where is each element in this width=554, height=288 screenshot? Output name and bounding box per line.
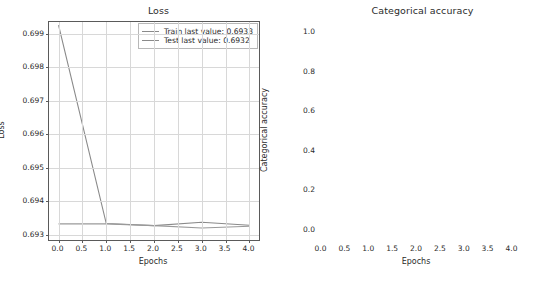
- xtick-label: 1.5: [123, 244, 135, 253]
- ytick-mark: [46, 34, 49, 35]
- loss-yaxis-title: Loss: [0, 121, 6, 139]
- xtick-label: 3.5: [219, 244, 231, 253]
- gridline-horizontal: [49, 168, 259, 169]
- gridline-horizontal: [49, 235, 259, 236]
- xtick-label: 0.0: [52, 244, 64, 253]
- subplot-categorical-accuracy: Categorical accuracy Train last value: 0…: [277, 0, 554, 288]
- gridline-vertical: [59, 22, 60, 240]
- xtick-label: 2.0: [410, 244, 422, 253]
- xtick-mark: [59, 240, 60, 243]
- xtick-mark: [249, 240, 250, 243]
- gridline-vertical: [130, 22, 131, 240]
- ytick-label: 0.698: [10, 62, 44, 71]
- ytick-label: 0.8: [295, 66, 315, 75]
- gridline-vertical: [226, 22, 227, 240]
- ytick-mark: [46, 67, 49, 68]
- xtick-label: 2.5: [171, 244, 183, 253]
- ytick-label: 1.0: [295, 26, 315, 35]
- gridline-horizontal: [49, 34, 259, 35]
- gridline-vertical: [249, 22, 250, 240]
- ytick-label: 0.2: [295, 185, 315, 194]
- loss-chart-title: Loss: [0, 5, 277, 16]
- ytick-label: 0.695: [10, 162, 44, 171]
- ytick-mark: [46, 201, 49, 202]
- xtick-label: 1.5: [386, 244, 398, 253]
- xtick-label: 4.0: [242, 244, 254, 253]
- ytick-label: 0.6: [295, 106, 315, 115]
- xtick-label: 4.0: [505, 244, 517, 253]
- xtick-label: 0.5: [75, 244, 87, 253]
- xtick-mark: [82, 240, 83, 243]
- ytick-mark: [46, 168, 49, 169]
- gridline-vertical: [178, 22, 179, 240]
- ytick-label: 0.0: [295, 225, 315, 234]
- test-line-swatch-icon: [142, 40, 159, 41]
- ytick-label: 0.697: [10, 95, 44, 104]
- gridline-horizontal: [49, 201, 259, 202]
- accuracy-xaxis-title: Epochs: [402, 257, 431, 266]
- xtick-mark: [130, 240, 131, 243]
- xtick-mark: [106, 240, 107, 243]
- xtick-label: 3.0: [458, 244, 470, 253]
- loss-xaxis-title: Epochs: [139, 257, 168, 266]
- loss-legend: Train last value: 0.6933 Test last value…: [138, 23, 258, 49]
- gridline-vertical: [154, 22, 155, 240]
- ytick-mark: [46, 235, 49, 236]
- xtick-mark: [202, 240, 203, 243]
- xtick-label: 2.0: [147, 244, 159, 253]
- xtick-mark: [178, 240, 179, 243]
- xtick-label: 1.0: [362, 244, 374, 253]
- matplotlib-figure: Loss Train last value: 0.6933 Test last …: [0, 0, 554, 288]
- xtick-label: 3.5: [482, 244, 494, 253]
- ytick-label: 0.699: [10, 28, 44, 37]
- gridline-horizontal: [49, 101, 259, 102]
- xtick-mark: [226, 240, 227, 243]
- ytick-label: 0.693: [10, 229, 44, 238]
- gridline-horizontal: [49, 134, 259, 135]
- gridline-vertical: [82, 22, 83, 240]
- accuracy-chart-title: Categorical accuracy: [277, 5, 554, 16]
- xtick-mark: [154, 240, 155, 243]
- ytick-label: 0.694: [10, 196, 44, 205]
- xtick-label: 1.0: [99, 244, 111, 253]
- xtick-label: 2.5: [434, 244, 446, 253]
- legend-row-test: Test last value: 0.6932: [142, 36, 253, 45]
- xtick-label: 0.0: [315, 244, 327, 253]
- xtick-label: 3.0: [195, 244, 207, 253]
- gridline-vertical: [106, 22, 107, 240]
- ytick-label: 0.696: [10, 129, 44, 138]
- train-line-swatch-icon: [142, 31, 159, 32]
- accuracy-yaxis-title: Categorical accuracy: [260, 88, 269, 172]
- gridline-vertical: [202, 22, 203, 240]
- subplot-loss: Loss Train last value: 0.6933 Test last …: [0, 0, 277, 288]
- ytick-mark: [46, 134, 49, 135]
- ytick-label: 0.4: [295, 145, 315, 154]
- gridline-horizontal: [49, 67, 259, 68]
- loss-plot-area: Train last value: 0.6933 Test last value…: [48, 21, 260, 241]
- ytick-mark: [46, 101, 49, 102]
- xtick-label: 0.5: [338, 244, 350, 253]
- legend-label-test: Test last value: 0.6932: [164, 36, 250, 45]
